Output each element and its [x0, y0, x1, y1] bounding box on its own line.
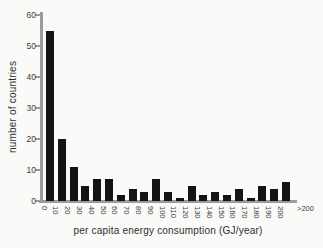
x-tick-label-text: 190 — [264, 206, 273, 219]
bar-120-130 — [188, 186, 196, 202]
bar-180-190 — [258, 186, 266, 202]
bar-190-200 — [270, 189, 278, 201]
bar-0-10 — [46, 31, 54, 202]
bar-110-120 — [176, 198, 184, 201]
x-tick-label-text: 90 — [146, 206, 155, 214]
x-tick-label: 60 — [110, 206, 120, 214]
x-tick-label: 100 — [157, 206, 167, 219]
y-tick-label: 30 — [14, 104, 36, 113]
x-tick-label-text: 30 — [75, 206, 84, 214]
bar-40-50 — [93, 179, 101, 201]
bar-60-70 — [117, 195, 125, 201]
x-tick-label: 140 — [204, 206, 214, 219]
x-tick-label-text: 110 — [169, 206, 178, 218]
x-tick-label: 10 — [51, 206, 61, 214]
energy-consumption-histogram: number of countries 0102030405060 010203… — [0, 0, 323, 248]
x-tick-label-text: 130 — [193, 206, 202, 219]
x-tick-label: 110 — [169, 206, 179, 218]
bar-80-90 — [140, 192, 148, 201]
bar-150-160 — [223, 195, 231, 201]
bar-160-170 — [235, 189, 243, 201]
x-tick-label-text: 100 — [158, 206, 167, 219]
x-tick-label: 90 — [145, 206, 155, 214]
bar-140-150 — [211, 192, 219, 201]
x-tick-label: 150 — [216, 206, 226, 219]
bar-130-140 — [199, 195, 207, 201]
x-tick-label: 30 — [74, 206, 84, 214]
y-tick-label: 40 — [14, 73, 36, 82]
x-axis-overflow-label: >200 — [297, 204, 314, 213]
x-tick-label-text: 40 — [87, 206, 96, 214]
x-tick-label-text: 80 — [134, 206, 143, 214]
x-tick-label-text: 180 — [252, 206, 261, 219]
x-tick-label: 20 — [63, 206, 73, 214]
x-tick-label-text: 20 — [63, 206, 72, 214]
x-tick-label-text: 200 — [276, 206, 285, 219]
x-tick-label: 120 — [181, 206, 191, 219]
x-tick-label-text: 160 — [228, 206, 237, 219]
bar-100-110 — [164, 192, 172, 201]
bar->200 — [282, 182, 290, 201]
x-tick-label-text: 10 — [51, 206, 60, 214]
bar-50-60 — [105, 179, 113, 201]
x-tick-label-text: 170 — [240, 206, 249, 219]
x-tick-label: 170 — [240, 206, 250, 219]
bar-170-180 — [247, 198, 255, 201]
x-tick-label: 180 — [252, 206, 262, 219]
x-tick-label: 50 — [98, 206, 108, 214]
x-tick-label: 80 — [133, 206, 143, 214]
x-tick-label-text: 150 — [217, 206, 226, 219]
x-tick-label-text: 70 — [122, 206, 131, 214]
x-tick-label-text: 140 — [205, 206, 214, 219]
y-tick-label: 50 — [14, 42, 36, 51]
x-tick-label-text: 120 — [181, 206, 190, 219]
y-tick-label: 20 — [14, 135, 36, 144]
y-tick-label: 0 — [14, 197, 36, 206]
y-tick-label: 10 — [14, 166, 36, 175]
x-tick-label: 200 — [275, 206, 285, 219]
x-axis-title: per capita energy consumption (GJ/year) — [39, 225, 297, 236]
y-tick-label: 60 — [14, 11, 36, 20]
x-tick-label-text: 50 — [99, 206, 108, 214]
bar-90-100 — [152, 179, 160, 201]
x-tick-label: 190 — [263, 206, 273, 219]
y-axis-line — [40, 12, 43, 203]
bar-30-40 — [81, 186, 89, 202]
x-tick-label: 0 — [39, 206, 49, 210]
bar-70-80 — [129, 189, 137, 201]
x-tick-label-text: 0 — [40, 206, 49, 210]
bar-20-30 — [70, 167, 78, 201]
x-tick-label: 160 — [228, 206, 238, 219]
bar-10-20 — [58, 139, 66, 201]
x-tick-label: 70 — [122, 206, 132, 214]
x-tick-label: 40 — [86, 206, 96, 214]
x-tick-label-text: 60 — [110, 206, 119, 214]
x-tick-label: 130 — [193, 206, 203, 219]
